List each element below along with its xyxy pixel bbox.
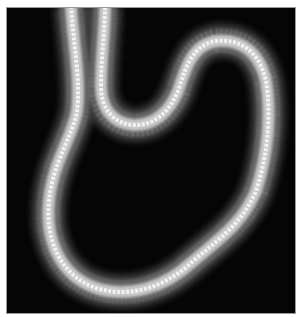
image-frame: Grayscale image of a glowing tube-shaped… <box>6 7 296 314</box>
tube-figure <box>7 8 296 314</box>
